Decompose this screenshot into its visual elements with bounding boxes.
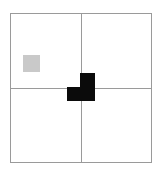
- puzzle-canvas: [0, 0, 163, 173]
- black-l-piece-vertical-bar: [80, 73, 95, 101]
- black-l-piece[interactable]: [67, 73, 95, 101]
- gray-square[interactable]: [23, 55, 40, 72]
- black-l-piece-left-foot: [67, 87, 81, 101]
